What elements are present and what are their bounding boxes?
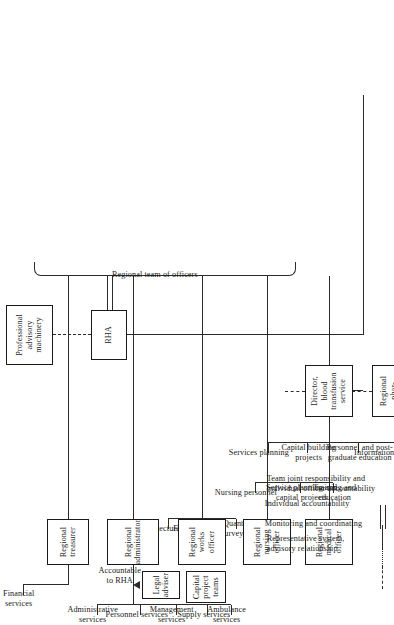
spine-rha-bottom: [363, 95, 364, 335]
box-regional-treasurer[interactable]: Regional treasurer: [47, 519, 89, 565]
box-label: Director, blood transfusion service: [310, 368, 348, 414]
legend-swatch-dashed-line: [382, 565, 383, 589]
diagram-rotation-wrapper: Professional advisory machinery RHA Regi…: [0, 0, 394, 625]
stem-administrator-to-bracket: [133, 276, 134, 519]
box-label: Regional administrator: [124, 520, 143, 565]
label-financial-services: Financial services: [0, 589, 57, 608]
box-label: Legal adviser: [152, 573, 171, 597]
link-medical-officer-to-blood-transfusion: [285, 391, 305, 392]
box-label: Regional phar- maceutical officer: [379, 368, 394, 414]
legend-label-individual-accountability: Individual accountability: [265, 499, 394, 509]
bottom-connector-blood: [353, 390, 363, 391]
legend-label-representative-system: Representative system, advisory relation…: [267, 534, 394, 553]
label-ambulance-services: Ambulance services: [187, 605, 267, 624]
label-regional-team-of-officers: Regional team of officers: [105, 270, 205, 280]
link-advisory-to-rha: [53, 334, 91, 335]
stem-treasurer-to-bracket: [68, 276, 69, 519]
box-rha[interactable]: RHA: [91, 310, 127, 360]
box-capital-project-teams[interactable]: Capital project teams: [186, 571, 226, 603]
box-label: Regional treasurer: [59, 522, 78, 562]
box-regional-works-officer[interactable]: Regional works officer: [178, 519, 226, 565]
box-label: Regional works officer: [188, 522, 216, 562]
box-director-blood-transfusion[interactable]: Director, blood transfusion service: [305, 365, 353, 417]
box-label: Professional advisory machinery: [15, 308, 43, 362]
link-medical-officer-to-pharmaceutical: [352, 391, 372, 392]
legend-swatch-double-line: [380, 505, 386, 529]
box-legal-adviser[interactable]: Legal adviser: [142, 571, 180, 599]
legend-label-monitoring-coordinating: Monitoring and coordinating: [265, 519, 394, 529]
org-chart-canvas: Professional advisory machinery RHA Regi…: [0, 0, 394, 625]
box-professional-advisory-machinery[interactable]: Professional advisory machinery: [6, 305, 53, 365]
treasurer-stem: [68, 565, 69, 585]
box-label: Capital project teams: [192, 574, 220, 600]
box-label: RHA: [104, 326, 113, 344]
box-regional-pharmaceutical-officer[interactable]: Regional phar- maceutical officer: [372, 365, 394, 417]
legend-label-team-joint: Team joint responsibility and individual…: [267, 474, 394, 493]
label-information-services: Information services: [349, 448, 394, 458]
treasurer-drop: [23, 584, 69, 585]
stem-works-to-bracket: [202, 276, 203, 519]
spine-rha-left: [127, 334, 363, 335]
box-regional-administrator[interactable]: Regional administrator: [107, 519, 159, 565]
link-rha-team-double: [107, 276, 113, 310]
